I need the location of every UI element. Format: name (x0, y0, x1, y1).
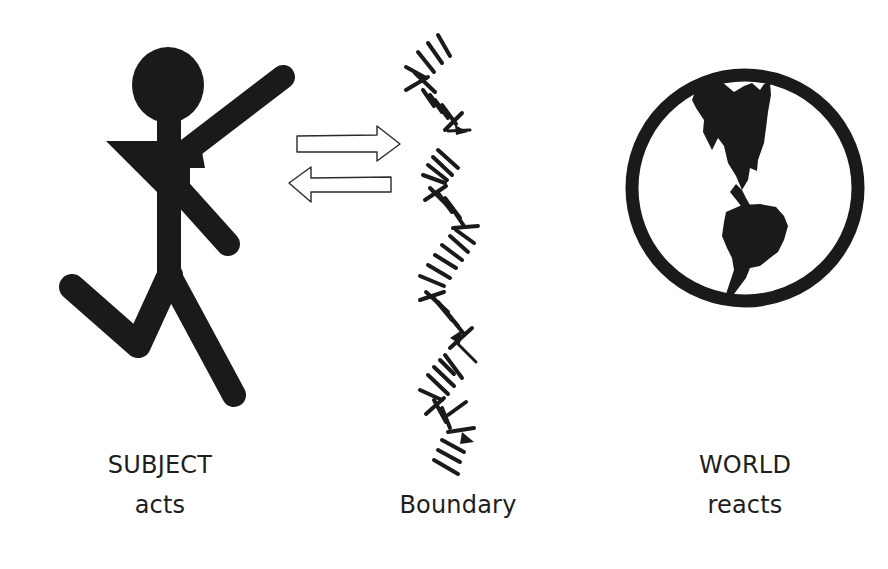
subject-title: SUBJECT (90, 448, 230, 482)
world-panel: WORLD reacts (600, 0, 888, 569)
world-title: WORLD (680, 448, 810, 482)
subject-caption: acts (90, 488, 230, 522)
running-stick-figure-icon (0, 0, 300, 420)
subject-panel: SUBJECT acts (0, 0, 300, 569)
zigzag-hatched-boundary-icon (390, 30, 500, 480)
boundary-title: Boundary (378, 488, 538, 522)
subject-label: SUBJECT acts (90, 448, 230, 522)
boundary-label: Boundary (378, 488, 538, 522)
arrow-right-icon (297, 126, 400, 161)
world-label: WORLD reacts (680, 448, 810, 522)
globe-americas-icon (600, 0, 888, 330)
arrow-left-icon (289, 167, 391, 202)
world-caption: reacts (680, 488, 810, 522)
